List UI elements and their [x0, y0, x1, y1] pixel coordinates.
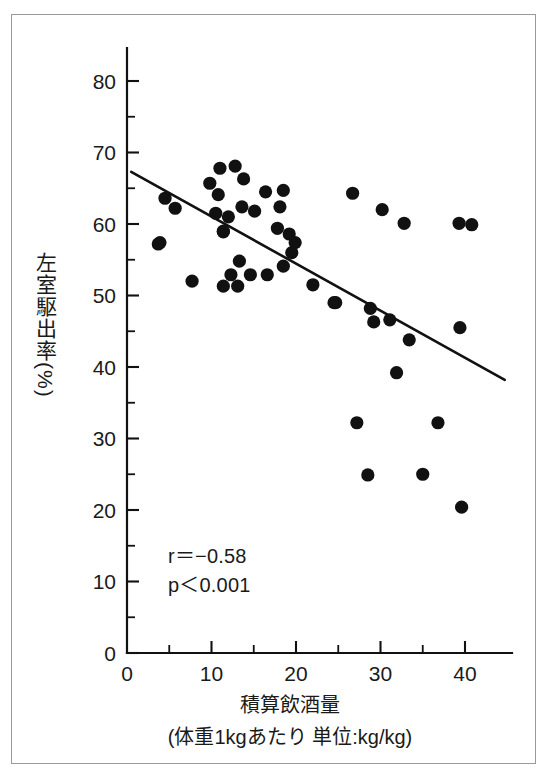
pvalue-annotation: p＜0.001	[168, 574, 251, 596]
y-axis-tick-label: 0	[104, 642, 116, 665]
y-axis-tick-label: 60	[93, 213, 116, 236]
x-axis-title: 積算飲酒量	[240, 694, 340, 716]
data-point	[231, 280, 244, 293]
data-point	[248, 205, 261, 218]
y-axis-tick-label: 10	[93, 570, 116, 593]
x-axis-tick-label: 0	[121, 662, 133, 685]
data-point	[390, 366, 403, 379]
scatter-plot: 01020304050607080010203040 r＝−0.58p＜0.00…	[0, 0, 549, 779]
figure-root: 左室駆出率(%) 01020304050607080010203040 r＝−0…	[0, 0, 549, 779]
data-point	[261, 268, 274, 281]
data-point	[212, 188, 225, 201]
data-point	[403, 333, 416, 346]
data-point	[259, 185, 272, 198]
data-point	[244, 268, 257, 281]
data-point	[229, 159, 242, 172]
data-point	[213, 162, 226, 175]
y-axis-tick-label: 30	[93, 427, 116, 450]
data-point	[277, 260, 290, 273]
data-point	[452, 217, 465, 230]
data-point	[416, 468, 429, 481]
x-axis-tick-label: 30	[369, 662, 392, 685]
data-point	[361, 468, 374, 481]
data-point	[465, 218, 478, 231]
y-axis-tick-label: 40	[93, 356, 116, 379]
data-point	[153, 236, 166, 249]
data-point	[185, 275, 198, 288]
data-point	[453, 321, 466, 334]
data-point	[376, 203, 389, 216]
y-axis-tick-label: 20	[93, 499, 116, 522]
data-point	[233, 255, 246, 268]
data-point	[329, 296, 342, 309]
data-point	[271, 222, 284, 235]
data-point	[306, 278, 319, 291]
data-point	[273, 200, 286, 213]
data-point	[398, 217, 411, 230]
data-point	[277, 184, 290, 197]
x-axis-tick-label: 10	[200, 662, 223, 685]
tick-labels-group: 01020304050607080010203040	[93, 70, 477, 686]
data-point	[350, 416, 363, 429]
regression-line	[131, 172, 504, 380]
y-axis-tick-label: 50	[93, 284, 116, 307]
data-point	[237, 172, 250, 185]
data-point	[224, 268, 237, 281]
data-point	[235, 200, 248, 213]
data-point	[169, 202, 182, 215]
y-axis-tick-label: 70	[93, 141, 116, 164]
data-point	[217, 280, 230, 293]
trend-line-group	[131, 172, 504, 380]
x-axis-tick-label: 20	[284, 662, 307, 685]
axis-titles-group: 積算飲酒量(体重1kgあたり 単位:kg/kg)	[168, 694, 412, 748]
correlation-annotation: r＝−0.58	[168, 545, 247, 567]
ticks-group	[127, 81, 465, 653]
data-point	[203, 177, 216, 190]
x-axis-subtitle: (体重1kgあたり 単位:kg/kg)	[168, 726, 412, 748]
data-point	[455, 501, 468, 514]
data-point	[222, 210, 235, 223]
data-point	[367, 315, 380, 328]
y-axis-tick-label: 80	[93, 70, 116, 93]
x-axis-tick-label: 40	[453, 662, 476, 685]
annotations-group: r＝−0.58p＜0.001	[168, 545, 251, 596]
data-point	[346, 187, 359, 200]
data-point	[431, 416, 444, 429]
